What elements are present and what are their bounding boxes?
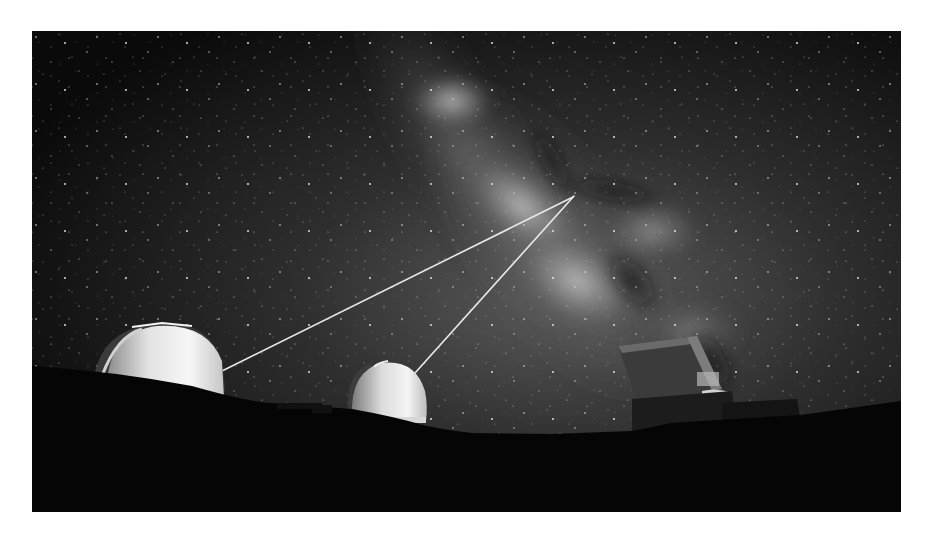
photo-canvas [32, 31, 901, 512]
night-sky-photo [32, 31, 901, 512]
